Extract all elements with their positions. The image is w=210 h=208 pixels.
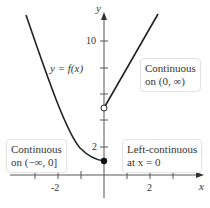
- function-label: y = f(x): [50, 62, 83, 74]
- left-continuous-box: Left-continuous at x = 0: [122, 139, 202, 173]
- x-tick-neg2: -2: [51, 182, 59, 193]
- continuous-left-box: Continuous on (−∞, 0]: [6, 139, 67, 173]
- open-point-icon: [101, 105, 107, 111]
- y-axis-arrow-icon: [101, 12, 107, 20]
- graph: [0, 0, 210, 208]
- x-tick-2: 2: [147, 182, 152, 193]
- y-tick-2: 2: [92, 141, 97, 152]
- y-tick-10: 10: [86, 35, 96, 46]
- continuous-right-box: Continuous on (0, ∞): [140, 58, 201, 92]
- y-axis-label: y: [96, 2, 101, 14]
- filled-point-icon: [101, 158, 107, 164]
- x-axis-label: x: [199, 180, 204, 192]
